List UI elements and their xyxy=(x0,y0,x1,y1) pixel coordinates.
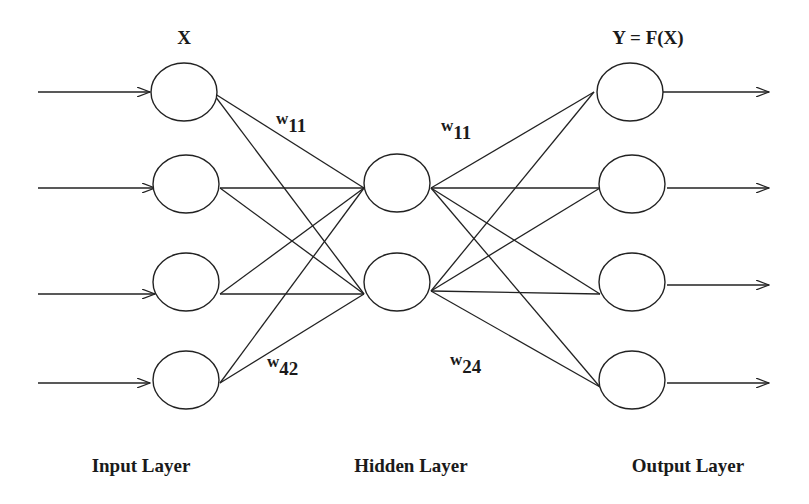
weight-label-w24: w24 xyxy=(450,350,482,377)
output-node-2 xyxy=(599,155,665,213)
weight-label-w11-input: w11 xyxy=(276,109,306,136)
output-node-1 xyxy=(597,63,663,121)
input-node-2 xyxy=(153,155,219,213)
weight-label-w42: w42 xyxy=(267,352,298,379)
hidden-layer-label: Hidden Layer xyxy=(354,455,468,476)
input-node-1 xyxy=(151,63,217,121)
output-layer-label: Output Layer xyxy=(632,455,745,476)
input-layer-label: Input Layer xyxy=(92,455,191,476)
hidden-node-2 xyxy=(364,253,430,311)
output-function-label: Y = F(X) xyxy=(612,27,683,49)
weight-label-w11-hidden: w11 xyxy=(441,116,471,143)
input-node-3 xyxy=(153,253,219,311)
diagram-svg: X Y = F(X) w11 w42 w11 w24 Input Layer H… xyxy=(0,0,809,504)
input-vector-label: X xyxy=(177,27,191,48)
input-node-4 xyxy=(153,351,219,409)
hidden-node-1 xyxy=(364,154,430,212)
output-node-3 xyxy=(599,253,665,311)
neural-network-diagram: X Y = F(X) w11 w42 w11 w24 Input Layer H… xyxy=(0,0,809,504)
output-node-4 xyxy=(599,351,665,409)
